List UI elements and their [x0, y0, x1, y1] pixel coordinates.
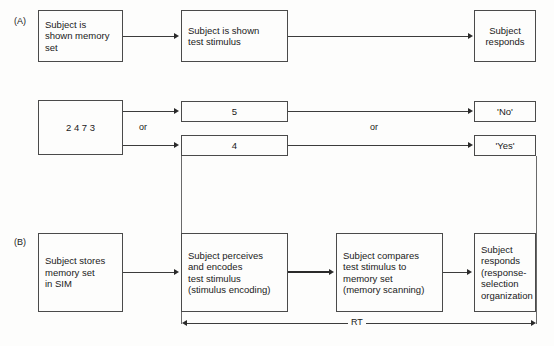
box-subject-responds-selection: Subject responds (response- selection or…	[474, 233, 536, 312]
box-text: 'No'	[497, 106, 513, 118]
box-text: Subject responds	[485, 25, 524, 48]
box-subject-compares: Subject compares test stimulus to memory…	[336, 233, 443, 312]
box-test-stimulus-four: 4	[181, 135, 288, 156]
or-label-second: or	[370, 122, 378, 132]
arrowhead-b3-b4-icon	[467, 269, 472, 275]
box-text: 'Yes'	[495, 140, 514, 152]
arrowhead-memset-four-icon	[174, 142, 179, 148]
box-text: 4	[232, 140, 237, 152]
rt-arrowhead-right-icon	[531, 320, 536, 326]
box-text: 2 4 7 3	[66, 122, 95, 134]
box-subject-shown-test-stimulus: Subject is shown test stimulus	[181, 10, 288, 62]
box-text: Subject perceives and encodes test stimu…	[188, 250, 270, 296]
box-text: Subject is shown test stimulus	[188, 25, 259, 48]
connector-a2-a3	[288, 36, 470, 37]
box-text: Subject compares test stimulus to memory…	[343, 250, 424, 296]
box-text: 5	[232, 106, 237, 118]
connector-four-to-yes	[288, 145, 470, 146]
box-text: Subject stores memory set in SIM	[45, 255, 105, 290]
box-memory-set-digits: 2 4 7 3	[38, 100, 123, 155]
connector-b1-b2	[123, 272, 175, 273]
arrowhead-a2-a3-icon	[468, 33, 473, 39]
arrowhead-a1-a2-icon	[174, 33, 179, 39]
panel-label-a: (A)	[14, 16, 26, 26]
or-label-first: or	[139, 122, 147, 132]
box-response-no: 'No'	[474, 101, 536, 122]
connector-b2-b3	[288, 271, 330, 273]
arrowhead-memset-five-icon	[174, 108, 179, 114]
arrowhead-five-no-icon	[468, 108, 473, 114]
arrowhead-b2-b3-icon	[329, 269, 334, 275]
box-subject-responds: Subject responds	[474, 10, 536, 62]
connector-a1-a2	[123, 36, 175, 37]
figure-diagram: (A) Subject is shown memory set Subject …	[0, 0, 554, 346]
connector-memset-to-four	[123, 145, 175, 146]
connector-five-to-no	[288, 111, 470, 112]
box-response-yes: 'Yes'	[474, 135, 536, 156]
connector-memset-to-five	[123, 111, 175, 112]
guide-line-right	[536, 156, 537, 324]
box-test-stimulus-five: 5	[181, 101, 288, 122]
panel-label-b: (B)	[14, 237, 26, 247]
arrowhead-four-yes-icon	[468, 142, 473, 148]
box-text: Subject is shown memory set	[45, 19, 109, 54]
rt-label: RT	[348, 317, 366, 327]
box-text: Subject responds (response- selection or…	[481, 244, 533, 302]
connector-b3-b4	[443, 272, 468, 273]
box-subject-perceives-encodes: Subject perceives and encodes test stimu…	[181, 233, 288, 312]
box-subject-shown-memory-set: Subject is shown memory set	[38, 10, 123, 62]
box-subject-stores-memory-set: Subject stores memory set in SIM	[38, 233, 123, 312]
rt-arrowhead-left-icon	[182, 320, 187, 326]
arrowhead-b1-b2-icon	[174, 269, 179, 275]
